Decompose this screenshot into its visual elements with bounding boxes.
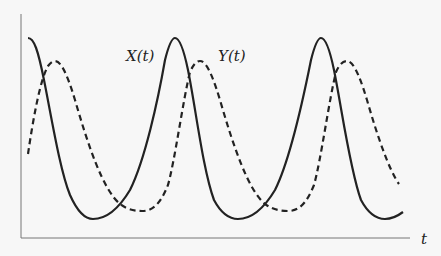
chart: X(t) Y(t) t [0,0,441,256]
series-y-dashed [28,61,399,211]
label-t: t [421,230,428,248]
label-y: Y(t) [218,47,246,65]
label-x: X(t) [125,47,155,65]
